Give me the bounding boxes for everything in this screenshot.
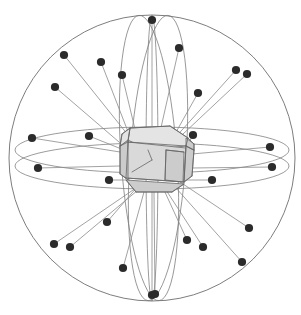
vertex-dot-v01 — [148, 16, 156, 24]
vertex-dot-v25 — [119, 264, 127, 272]
vertex-dot-v27 — [151, 290, 159, 298]
vertex-dot-v04 — [97, 58, 105, 66]
radial-vector-v13 — [192, 147, 270, 154]
vertex-dot-v23 — [199, 243, 207, 251]
vertex-dot-v17 — [208, 176, 216, 184]
vertex-dot-v19 — [245, 224, 253, 232]
radial-vector-v27 — [154, 192, 155, 294]
radial-vector-v19 — [180, 182, 249, 228]
vertex-dot-v05 — [118, 71, 126, 79]
radial-vector-v21 — [54, 188, 136, 244]
vertex-dot-v16 — [105, 176, 113, 184]
vertex-dot-v18 — [103, 218, 111, 226]
vertex-dot-v12 — [28, 134, 36, 142]
vertex-dot-v21 — [50, 240, 58, 248]
radial-vector-v18 — [107, 186, 138, 222]
radial-vector-v03 — [64, 55, 132, 140]
vertex-dot-v07 — [243, 70, 251, 78]
vertex-dot-v24 — [238, 258, 246, 266]
vertex-dot-v02 — [175, 44, 183, 52]
vertex-dot-v08 — [51, 83, 59, 91]
vertex-dot-v09 — [194, 89, 202, 97]
radial-vector-v25 — [123, 192, 144, 268]
polyhedron-face-inner-right-panel — [165, 150, 184, 182]
vertex-dot-v03 — [60, 51, 68, 59]
radial-vector-v14 — [38, 166, 120, 168]
radial-vector-v20 — [164, 190, 187, 240]
radial-vector-v15 — [192, 167, 272, 168]
vertex-dot-v20 — [183, 236, 191, 244]
vertex-dot-v10 — [85, 132, 93, 140]
vertex-dot-v06 — [232, 66, 240, 74]
vertex-dot-v14 — [34, 164, 42, 172]
diagram-canvas — [0, 0, 301, 315]
radial-vector-v12 — [32, 138, 120, 152]
vertex-dot-v11 — [189, 131, 197, 139]
coordination-sphere-diagram — [0, 0, 301, 315]
radial-vector-v24 — [176, 188, 242, 262]
vertex-dot-v22 — [66, 243, 74, 251]
central-polyhedron — [120, 126, 194, 192]
vertex-dot-v13 — [266, 143, 274, 151]
vertex-dot-v15 — [268, 163, 276, 171]
